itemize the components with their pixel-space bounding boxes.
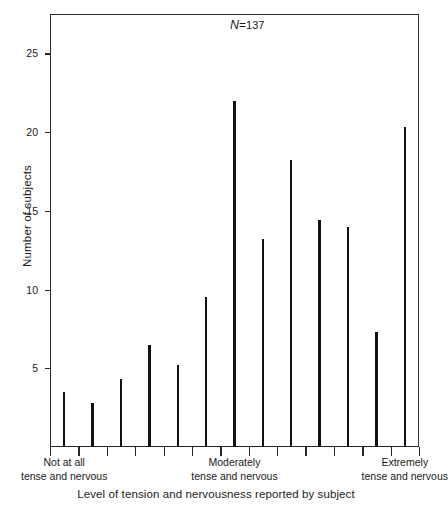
x-category-label: Extremelytense and nervous: [362, 456, 448, 483]
bar: [404, 127, 406, 447]
bar: [233, 101, 235, 447]
y-axis-tick-label: 10: [26, 284, 38, 295]
plot-area: 510152025: [50, 14, 419, 447]
y-axis-tick-label: 25: [26, 48, 38, 59]
x-axis-tick: [277, 447, 278, 456]
x-axis-tick: [192, 447, 193, 456]
bar: [318, 220, 320, 447]
x-axis-tick: [305, 447, 306, 456]
y-axis-tick-label: 20: [26, 127, 38, 138]
x-category-label-line1: Extremely: [362, 456, 448, 470]
y-axis-tick: 20: [45, 132, 50, 133]
n-value: 137: [246, 19, 264, 31]
y-axis-tick-label: 5: [32, 363, 38, 374]
axis-right-spine: [418, 14, 419, 447]
bar: [148, 345, 150, 447]
x-axis-tick: [135, 447, 136, 456]
axis-top-spine: [50, 14, 419, 15]
x-category-label-line2: tense and nervous: [362, 470, 448, 484]
bar: [347, 227, 349, 447]
bar: [120, 379, 122, 447]
x-axis-tick: [249, 447, 250, 456]
x-category-label-line2: tense and nervous: [21, 470, 107, 484]
sample-size-annotation: N=137: [230, 18, 264, 32]
x-axis-tick: [334, 447, 335, 456]
x-category-label-line2: tense and nervous: [191, 470, 277, 484]
y-axis-tick: 10: [45, 290, 50, 291]
x-axis-title: Level of tension and nervousness reporte…: [0, 488, 432, 500]
bar: [262, 239, 264, 447]
x-category-label: Moderatelytense and nervous: [191, 456, 277, 483]
x-axis-tick: [391, 447, 392, 456]
bar: [205, 297, 207, 447]
n-symbol: N: [230, 18, 239, 32]
bar: [177, 365, 179, 447]
x-category-label-line1: Not at all: [21, 456, 107, 470]
bar: [375, 332, 377, 447]
n-equals-sign: =: [239, 18, 246, 32]
axis-left-spine: [50, 14, 51, 447]
bar: [63, 392, 65, 447]
y-axis-tick: 15: [45, 211, 50, 212]
bar: [290, 160, 292, 447]
x-axis-tick: [50, 447, 51, 456]
x-axis-tick: [78, 447, 79, 456]
y-axis-tick-label: 15: [26, 206, 38, 217]
x-axis-tick: [362, 447, 363, 456]
x-axis-tick: [164, 447, 165, 456]
y-axis-tick: 25: [45, 53, 50, 54]
x-category-label-line1: Moderately: [191, 456, 277, 470]
bar: [91, 403, 93, 447]
x-axis-tick: [419, 447, 420, 456]
x-category-label: Not at alltense and nervous: [21, 456, 107, 483]
y-axis-tick: 5: [45, 368, 50, 369]
x-axis-tick: [220, 447, 221, 456]
x-axis-tick: [107, 447, 108, 456]
